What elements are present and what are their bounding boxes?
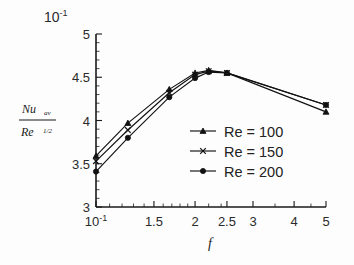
series-marker-2 <box>93 169 98 174</box>
y-axis-tick-labels: 33.544.55 <box>72 27 90 215</box>
y-tick-label: 5 <box>83 27 90 42</box>
x-tick-label: 5 <box>322 214 329 229</box>
series-marker-2 <box>206 69 211 74</box>
y-axis-title-denominator-exponent: 1/2 <box>43 127 52 135</box>
x-tick-label: 1.5 <box>145 214 163 229</box>
y-tick-label: 3 <box>83 200 90 215</box>
legend-marker-2 <box>200 168 205 173</box>
x-tick-label: 2.5 <box>218 214 236 229</box>
data-series-group <box>96 70 326 171</box>
series-line-2 <box>96 72 326 171</box>
y-axis-multiplier: 10-1 <box>44 8 68 25</box>
y-tick-label: 4.5 <box>72 70 90 85</box>
x-tick-label: 10-1 <box>85 213 107 229</box>
y-tick-label: 4 <box>83 114 90 129</box>
y-axis-title-numerator: Nu <box>21 102 36 116</box>
x-axis-tick-labels: 10-11.522.5345 <box>85 213 330 229</box>
data-markers-group <box>93 67 329 174</box>
series-line-1 <box>96 71 326 161</box>
nusselt-vs-frequency-chart: 10-1 33.544.55 10-11.522.5345 Nu av Re 1… <box>0 0 354 265</box>
legend-label-1: Re = 150 <box>224 144 283 160</box>
series-marker-2 <box>125 135 130 140</box>
legend-label-2: Re = 200 <box>224 164 283 180</box>
y-axis-title: Nu av Re 1/2 <box>19 102 56 139</box>
chart-legend: Re = 100Re = 150Re = 200 <box>190 124 283 180</box>
x-tick-label: 4 <box>290 214 297 229</box>
x-tick-label: 2 <box>191 214 198 229</box>
x-axis-ticks <box>96 201 326 207</box>
legend-label-0: Re = 100 <box>224 124 283 140</box>
x-axis-title: f <box>208 236 214 251</box>
series-marker-2 <box>224 70 229 75</box>
y-axis-title-denominator: Re <box>20 125 34 139</box>
y-axis-title-numerator-subscript: av <box>44 109 52 117</box>
series-marker-2 <box>323 102 328 107</box>
x-tick-label: 3 <box>249 214 256 229</box>
series-marker-2 <box>192 76 197 81</box>
chart-figure: 10-1 33.544.55 10-11.522.5345 Nu av Re 1… <box>0 0 354 265</box>
series-marker-2 <box>167 95 172 100</box>
y-tick-label: 3.5 <box>72 157 90 172</box>
series-line-0 <box>96 70 326 156</box>
